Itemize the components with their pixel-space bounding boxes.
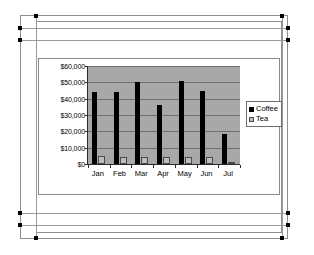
bar-tea[interactable]	[206, 157, 213, 164]
x-axis-tick	[197, 165, 198, 168]
y-axis-tick-label: $0	[77, 161, 85, 168]
y-axis-tick-labels: $0$10,000$20,000$30,000$40,000$50,000$60…	[41, 66, 85, 164]
selection-handle-bottom-left[interactable]	[34, 236, 38, 240]
chart-legend[interactable]: CoffeeTea	[246, 101, 282, 127]
y-axis-tick-label: $20,000	[60, 128, 85, 135]
plot-area	[87, 66, 240, 165]
selection-handle-middle-left-3[interactable]	[18, 211, 22, 215]
legend-swatch-tea	[249, 117, 254, 122]
selection-handle-top-left[interactable]	[34, 14, 38, 18]
guide-line-left	[36, 15, 37, 239]
selection-handle-middle-right-3[interactable]	[286, 211, 290, 215]
x-axis-tick-label: Jan	[92, 169, 104, 178]
y-axis-tick	[85, 99, 88, 100]
selection-handle-middle-left-4[interactable]	[18, 223, 22, 227]
gridline	[88, 82, 240, 83]
bar-coffee[interactable]	[179, 81, 184, 164]
legend-item[interactable]: Coffee	[249, 104, 278, 114]
guide-line-bottom-1	[20, 213, 288, 214]
bar-tea[interactable]	[185, 157, 192, 164]
y-axis-tick-label: $30,000	[60, 112, 85, 119]
gridline	[88, 66, 240, 67]
x-axis-tick	[175, 165, 176, 168]
selection-handle-middle-right-1[interactable]	[286, 26, 290, 30]
y-axis-tick-label: $50,000	[60, 79, 85, 86]
x-axis-tick-label: May	[178, 169, 192, 178]
bar-coffee[interactable]	[135, 82, 140, 164]
selection-handle-middle-right-4[interactable]	[286, 223, 290, 227]
bar-tea[interactable]	[120, 157, 127, 164]
chart-object[interactable]: $0$10,000$20,000$30,000$40,000$50,000$60…	[38, 58, 280, 195]
gridline	[88, 148, 240, 149]
y-axis-tick	[85, 66, 88, 67]
guide-line-top-1	[20, 28, 288, 29]
x-axis-tick-label: Feb	[113, 169, 126, 178]
selection-handle-top-right[interactable]	[280, 14, 284, 18]
chart-plot-wrapper: $0$10,000$20,000$30,000$40,000$50,000$60…	[39, 59, 279, 194]
x-axis-tick	[131, 165, 132, 168]
x-axis-tick	[218, 165, 219, 168]
canvas: $0$10,000$20,000$30,000$40,000$50,000$60…	[0, 0, 314, 255]
legend-swatch-coffee	[249, 107, 254, 112]
legend-item[interactable]: Tea	[249, 114, 278, 124]
selection-handle-middle-left-2[interactable]	[18, 38, 22, 42]
y-axis-tick-label: $10,000	[60, 144, 85, 151]
y-axis-tick	[85, 82, 88, 83]
x-axis-tick-labels: JanFebMarAprMayJunJul	[87, 169, 239, 181]
guide-line-top-2	[20, 40, 288, 41]
bar-coffee[interactable]	[92, 92, 97, 164]
y-axis-tick-label: $40,000	[60, 95, 85, 102]
guide-line-right	[282, 15, 283, 239]
y-axis-tick-label: $60,000	[60, 63, 85, 70]
bar-tea[interactable]	[98, 156, 105, 164]
bar-coffee[interactable]	[222, 134, 227, 164]
gridline	[88, 99, 240, 100]
y-axis-tick	[85, 148, 88, 149]
x-axis-tick-label: Mar	[135, 169, 148, 178]
x-axis-tick	[88, 165, 89, 168]
y-axis-tick	[85, 131, 88, 132]
bar-coffee[interactable]	[114, 92, 119, 164]
legend-item-label: Coffee	[256, 105, 278, 113]
bar-tea[interactable]	[141, 157, 148, 164]
bar-coffee[interactable]	[200, 91, 205, 165]
legend-item-label: Tea	[256, 115, 268, 123]
selection-handle-middle-right-2[interactable]	[286, 38, 290, 42]
x-axis-tick	[110, 165, 111, 168]
bar-coffee[interactable]	[157, 105, 162, 164]
y-axis-tick	[85, 115, 88, 116]
selection-handle-middle-left-1[interactable]	[18, 26, 22, 30]
gridline	[88, 131, 240, 132]
gridline	[88, 115, 240, 116]
guide-line-bottom-2	[20, 225, 288, 226]
bar-tea[interactable]	[228, 162, 235, 164]
x-axis-tick-label: Apr	[157, 169, 169, 178]
bar-tea[interactable]	[163, 157, 170, 164]
x-axis-tick	[153, 165, 154, 168]
x-axis-tick-label: Jun	[200, 169, 212, 178]
selection-handle-bottom-right[interactable]	[280, 236, 284, 240]
x-axis-tick	[240, 165, 241, 168]
x-axis-tick-label: Jul	[223, 169, 233, 178]
